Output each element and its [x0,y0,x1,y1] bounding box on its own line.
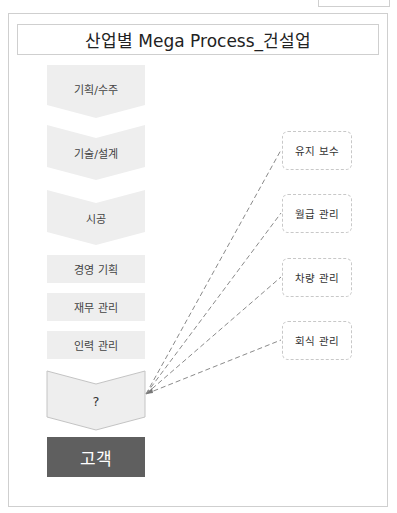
candidate-box-payroll: 월급 관리 [282,194,352,233]
support-box-finance: 재무 관리 [47,293,145,321]
candidate-box-maintenance: 유지 보수 [282,131,352,170]
connector-line-maintenance [146,150,281,394]
chevron-design-label: 기술/설계 [47,136,145,170]
chevron-construction-label: 시공 [47,201,145,235]
support-box-management-planning: 경영 기획 [47,255,145,283]
candidate-box-dinner: 회식 관리 [282,321,352,360]
candidate-box-vehicle: 차량 관리 [282,258,352,297]
support-box-label: 재무 관리 [47,293,145,321]
support-box-hr: 인력 관리 [47,331,145,359]
support-box-label: 인력 관리 [47,331,145,359]
support-box-label: 경영 기획 [47,255,145,283]
unknown-step-label: ? [47,384,145,418]
customer-box: 고객 [47,437,145,477]
connector-line-vehicle [146,277,281,394]
arrow-head-icon [146,388,153,394]
chevron-planning-label: 기획/수주 [47,72,145,106]
